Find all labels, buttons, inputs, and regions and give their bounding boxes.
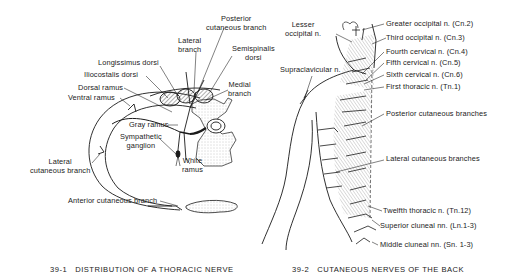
label-dorsal-ramus: Dorsal ramus xyxy=(78,84,123,93)
label-third-occipital: Third occipital n. (Cn.3) xyxy=(386,34,465,43)
label-sympathetic-ganglion: Sympathetic ganglion xyxy=(120,133,162,150)
label-lateral-branch: Lateral branch xyxy=(178,37,201,54)
label-ventral-ramus: Ventral ramus xyxy=(68,94,115,103)
label-fourth-cervical: Fourth cervical n. (Cn.4) xyxy=(386,48,468,57)
label-supraclavicular: Supraclavicular n. xyxy=(280,66,341,75)
label-medial-branch: Medial branch xyxy=(228,81,251,98)
label-middle-cluneal: Middle cluneal nn. (Sn. 1-3) xyxy=(380,241,473,250)
label-posterior-cutaneous-branch: Posterior cutaneous branch xyxy=(206,15,266,32)
figure-1-number: 39-1 xyxy=(50,265,67,274)
label-line: branch xyxy=(228,90,251,99)
label-sixth-cervical: Sixth cervical n. (Cn.6) xyxy=(386,71,463,80)
label-lateral-cutaneous-branches: Lateral cutaneous branches xyxy=(386,155,480,164)
figure-2-title: CUTANEOUS NERVES OF THE BACK xyxy=(317,265,464,274)
figure-2-drawing xyxy=(262,22,386,250)
label-lesser-occipital: Lesser occipital n. xyxy=(285,21,321,38)
label-first-thoracic: First thoracic n. (Tn.1) xyxy=(386,83,461,92)
label-iliocostalis-dorsi: Iliocostalis dorsi xyxy=(84,71,138,80)
figure-1-caption: 39-1DISTRIBUTION OF A THORACIC NERVE xyxy=(50,265,234,274)
label-lateral-cutaneous-branch: Lateral cutaneous branch xyxy=(30,158,90,175)
label-superior-cluneal: Superior cluneal nn. (Ln.1-3) xyxy=(380,222,477,231)
label-gray-ramus: Gray ramus xyxy=(129,121,169,130)
label-posterior-cutaneous-branches: Posterior cutaneous branches xyxy=(386,110,487,119)
label-line: cutaneous branch xyxy=(206,24,266,33)
label-line: dorsi xyxy=(232,54,275,63)
label-longissimus-dorsi: Longissimus dorsi xyxy=(98,59,159,68)
label-greater-occipital: Greater occipital n. (Cn.2) xyxy=(386,20,473,29)
label-twelfth-thoracic: Twelfth thoracic n. (Tn.12) xyxy=(383,207,471,216)
label-white-ramus: White ramus xyxy=(182,157,203,174)
label-line: occipital n. xyxy=(285,30,321,39)
label-fifth-cervical: Fifth cervical n. (Cn.5) xyxy=(386,59,461,68)
label-line: branch xyxy=(178,46,201,55)
label-line: ganglion xyxy=(120,142,162,151)
figure-2-caption: 39-2CUTANEOUS NERVES OF THE BACK xyxy=(292,265,464,274)
figure-2-number: 39-2 xyxy=(292,265,309,274)
anatomy-plate: Posterior cutaneous branch Lateral branc… xyxy=(0,0,513,278)
figure-1-title: DISTRIBUTION OF A THORACIC NERVE xyxy=(75,265,233,274)
label-anterior-cutaneous-branch: Anterior cutaneous branch xyxy=(68,197,157,206)
label-semispinalis-dorsi: Semispinalis dorsi xyxy=(232,45,275,62)
label-line: cutaneous branch xyxy=(30,167,90,176)
label-line: ramus xyxy=(182,166,203,175)
